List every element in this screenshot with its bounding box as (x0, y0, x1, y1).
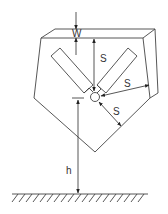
s-right-label: S (124, 78, 131, 89)
housing (34, 29, 158, 152)
h-dimension: h (66, 98, 84, 193)
detector-geometry-diagram: W S S S h (0, 0, 168, 214)
source-circle (91, 93, 100, 102)
housing-right-side (150, 29, 158, 98)
left-tube (51, 48, 93, 93)
s-diagonal-label: S (113, 106, 120, 117)
ground-hatching (12, 194, 148, 202)
w-label: W (72, 28, 82, 39)
s-right-dimension: S (101, 78, 149, 96)
s-vertical-label: S (100, 53, 107, 64)
s-diagonal-dimension: S (99, 102, 121, 126)
housing-top-face (41, 29, 155, 38)
s-vertical-dimension: S (94, 39, 107, 91)
w-dimension: W (72, 12, 82, 55)
h-label: h (66, 165, 72, 176)
